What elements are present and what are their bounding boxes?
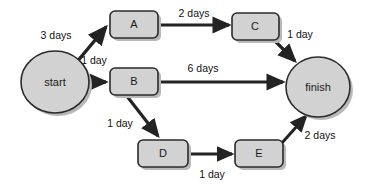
edge-A-C: 2 days [158,7,229,25]
node-B-label: B [130,75,137,87]
node-finish-label: finish [305,81,331,93]
node-E-label: E [255,147,262,159]
node-start-label: start [44,76,65,88]
edge-E-finish-label: 2 days [305,129,336,141]
network-diagram: 3 days 1 day 2 days 1 day 6 days 1 day [0,0,365,187]
edge-A-C-label: 2 days [179,7,210,19]
edge-D-E-label: 1 day [199,168,225,180]
edge-B-finish: 6 days [158,62,283,82]
node-D[interactable]: D [138,140,191,170]
edge-C-finish-label: 1 day [287,28,313,40]
node-A[interactable]: A [110,11,161,41]
edge-B-D-label: 1 day [107,117,133,129]
edge-start-A-label: 3 days [41,29,72,41]
node-finish[interactable]: finish [286,57,353,120]
edge-B-D-line [126,95,158,136]
diagram-canvas: 3 days 1 day 2 days 1 day 6 days 1 day [0,0,365,187]
edge-E-finish: 2 days [281,116,335,144]
node-D-label: D [159,147,167,159]
node-A-label: A [130,18,138,30]
edge-B-D: 1 day [107,95,158,136]
node-E[interactable]: E [235,140,286,170]
node-C[interactable]: C [232,13,282,43]
edge-start-B-label: 1 day [81,54,107,66]
node-C-label: C [251,20,259,32]
edge-D-E: 1 day [188,154,232,180]
node-B[interactable]: B [110,68,161,98]
edge-B-finish-label: 6 days [188,62,219,74]
edge-E-finish-line [281,116,306,144]
